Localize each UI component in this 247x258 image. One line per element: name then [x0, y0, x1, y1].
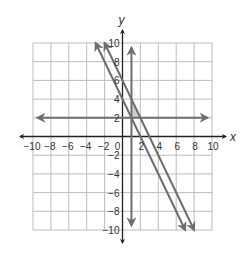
- x-tick-label: −8: [44, 141, 56, 152]
- tick-labels: −10−8−6−4−22468100−10−8−6−4−2246810xy: [24, 13, 237, 236]
- x-axis-label: x: [229, 130, 237, 144]
- y-tick-label: 2: [114, 113, 120, 124]
- coordinate-plane: −10−8−6−4−22468100−10−8−6−4−2246810xy: [0, 0, 247, 258]
- y-tick-label: 8: [114, 57, 120, 68]
- y-axis-label: y: [118, 13, 126, 27]
- y-tick-label: −4: [108, 169, 120, 180]
- y-tick-label: 4: [114, 94, 120, 105]
- y-tick-label: 6: [114, 75, 120, 86]
- y-tick-label: 10: [108, 38, 120, 49]
- x-tick-label: 10: [207, 141, 219, 152]
- x-tick-label: 2: [139, 141, 145, 152]
- y-tick-label: −2: [108, 150, 120, 161]
- y-tick-label: −8: [108, 206, 120, 217]
- x-tick-label: 4: [157, 141, 163, 152]
- x-tick-label: 8: [192, 141, 198, 152]
- x-tick-label: −4: [80, 141, 92, 152]
- y-tick-label: −10: [103, 225, 120, 236]
- y-tick-label: −6: [108, 188, 120, 199]
- x-tick-label: −6: [62, 141, 74, 152]
- x-tick-label: −10: [24, 141, 41, 152]
- x-tick-label: 6: [174, 141, 180, 152]
